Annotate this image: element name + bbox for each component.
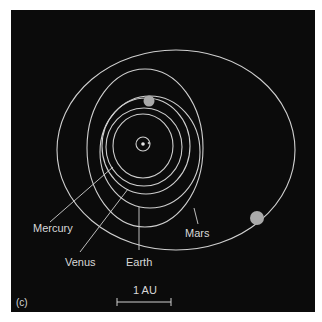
mars-leader-line	[194, 208, 198, 224]
sun-icon	[141, 142, 145, 146]
mercury-planet-icon	[148, 142, 151, 145]
label-mercury: Mercury	[33, 222, 73, 234]
label-mars: Mars	[185, 227, 209, 239]
mercury-orbit	[113, 114, 173, 178]
orbit-diagram	[0, 0, 322, 322]
panel-label: (c)	[16, 297, 28, 309]
planet-outer-icon	[250, 211, 264, 225]
mars-orbit	[100, 96, 200, 208]
label-venus: Venus	[65, 256, 96, 268]
label-earth: Earth	[126, 256, 152, 268]
scale-bar-label: 1 AU	[133, 284, 157, 296]
planet-top-icon	[144, 96, 155, 107]
mercury-leader-line	[50, 167, 113, 222]
orbit-5	[87, 69, 203, 227]
